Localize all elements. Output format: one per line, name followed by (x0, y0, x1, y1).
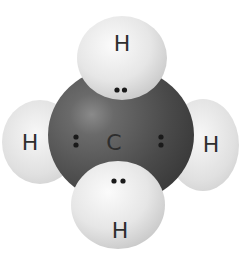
carbon-label: C (106, 130, 121, 155)
hydrogen-label-top: H (114, 31, 131, 56)
hydrogen-sphere-top (77, 16, 167, 100)
methane-molecule-diagram: H H H H C (0, 0, 244, 257)
electron-dot (111, 178, 116, 183)
hydrogen-label-right: H (203, 132, 220, 157)
hydrogen-atom-top (77, 16, 167, 100)
electron-dot (73, 134, 78, 139)
electron-dot (122, 87, 127, 92)
electron-dot (158, 142, 163, 147)
hydrogen-label-left: H (22, 130, 39, 155)
hydrogen-label-bottom: H (112, 218, 129, 243)
electron-dot (158, 134, 163, 139)
electron-dot (114, 87, 119, 92)
electron-dot (120, 178, 125, 183)
electron-dot (73, 142, 78, 147)
